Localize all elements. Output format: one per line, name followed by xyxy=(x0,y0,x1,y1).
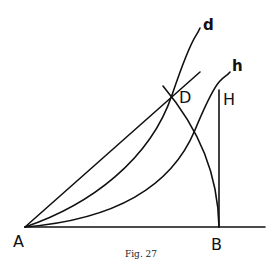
line-AD xyxy=(25,72,200,227)
label-h: h xyxy=(232,57,243,75)
geometry-figure: A B D H d h Fig. 27 xyxy=(0,0,280,274)
label-H: H xyxy=(223,90,235,109)
curve-h xyxy=(25,72,230,227)
label-D: D xyxy=(179,88,191,107)
figure-caption: Fig. 27 xyxy=(125,249,157,259)
label-A: A xyxy=(13,232,24,251)
curve-d xyxy=(25,28,200,227)
label-B: B xyxy=(211,235,222,254)
label-d: d xyxy=(203,16,214,34)
arc-BD xyxy=(163,86,219,227)
